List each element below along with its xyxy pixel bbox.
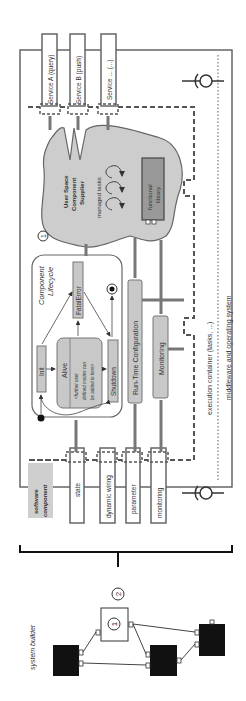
svg-text:Monitoring: Monitoring (158, 342, 166, 375)
system-builder: system builder 2 1 (29, 588, 225, 676)
port-monitoring[interactable]: monitoring (151, 448, 166, 523)
state-alive: Alive <further user defined modes can be… (57, 338, 102, 408)
system-builder-label: system builder (29, 624, 37, 670)
svg-text:Component: Component (37, 265, 46, 305)
functional-library: functional library (142, 158, 164, 224)
service-a-label: Service A (query) (47, 55, 55, 105)
svg-text:<further user: <further user (74, 373, 79, 399)
marker-1: 1 (38, 231, 48, 241)
svg-text:functional: functional (147, 184, 153, 210)
architecture-diagram: Service A (query) Service B (push) Servi… (0, 0, 246, 701)
service-etc-tab[interactable]: Service ... (...) (101, 34, 116, 106)
svg-text:Lifecycle: Lifecycle (46, 267, 55, 296)
run-time-configuration: Run-Time Configuration (128, 280, 142, 403)
component-node-selected[interactable]: 1 (101, 608, 128, 641)
component-supplier: User Space Component Supplier managed ta… (38, 125, 182, 247)
software-component-label: software component (28, 463, 53, 518)
port-parameter[interactable]: parameter (126, 448, 140, 523)
managed-tasks-label: managed tasks (96, 177, 102, 218)
bottom-socket-icon (182, 486, 224, 500)
state-init: Init (37, 346, 46, 392)
port-dynamic-wiring[interactable]: dynamic wiring (100, 448, 115, 523)
port-parameter-label: parameter (130, 484, 138, 514)
state-shutdown: Shutdown (108, 340, 118, 402)
final-state-icon (107, 284, 117, 294)
middleware-label: middleware and operating system (225, 295, 233, 400)
port-monitoring-label: monitoring (156, 487, 164, 518)
component-node-right[interactable] (199, 624, 225, 656)
service-b-label: Service B (push) (75, 56, 83, 104)
brace (20, 545, 232, 567)
monitoring-box: Monitoring (153, 316, 168, 398)
component-node-left[interactable] (53, 645, 79, 676)
node-ports (79, 620, 214, 668)
svg-text:Supplier: Supplier (79, 180, 85, 205)
svg-text:1: 1 (40, 234, 47, 238)
svg-text:software: software (33, 489, 39, 514)
port-state[interactable]: state (70, 448, 84, 523)
svg-text:component: component (42, 484, 48, 517)
svg-text:defined modes can: defined modes can (82, 361, 87, 400)
service-tabs: Service A (query) Service B (push) Servi… (42, 34, 116, 106)
service-a-tab[interactable]: Service A (query) (42, 34, 57, 106)
service-b-tab[interactable]: Service B (push) (70, 34, 85, 106)
initial-state-icon (38, 415, 45, 422)
port-dynamic-wiring-label: dynamic wiring (105, 475, 113, 518)
service-etc-label: Service ... (...) (106, 60, 114, 100)
svg-text:User Space: User Space (63, 175, 69, 208)
svg-text:Init: Init (38, 367, 45, 376)
svg-text:library: library (155, 187, 161, 203)
state-fatal-error: FatalError (73, 262, 83, 318)
execution-container-label: execution container (tasks, ...) (206, 322, 214, 415)
svg-text:2: 2 (114, 591, 123, 596)
component-lifecycle: Component Lifecycle Init Alive <further … (32, 255, 122, 422)
component-node-middle[interactable] (150, 645, 177, 676)
svg-text:1: 1 (110, 621, 119, 626)
svg-text:FatalError: FatalError (75, 285, 82, 315)
svg-text:Run-Time Configuration: Run-Time Configuration (132, 321, 140, 395)
svg-text:Shutdown: Shutdown (110, 367, 117, 396)
svg-text:be added in here>: be added in here> (90, 363, 95, 400)
port-state-label: state (74, 483, 81, 497)
marker-2: 2 (112, 588, 124, 600)
svg-text:Alive: Alive (61, 363, 68, 378)
svg-text:Component: Component (71, 178, 77, 211)
